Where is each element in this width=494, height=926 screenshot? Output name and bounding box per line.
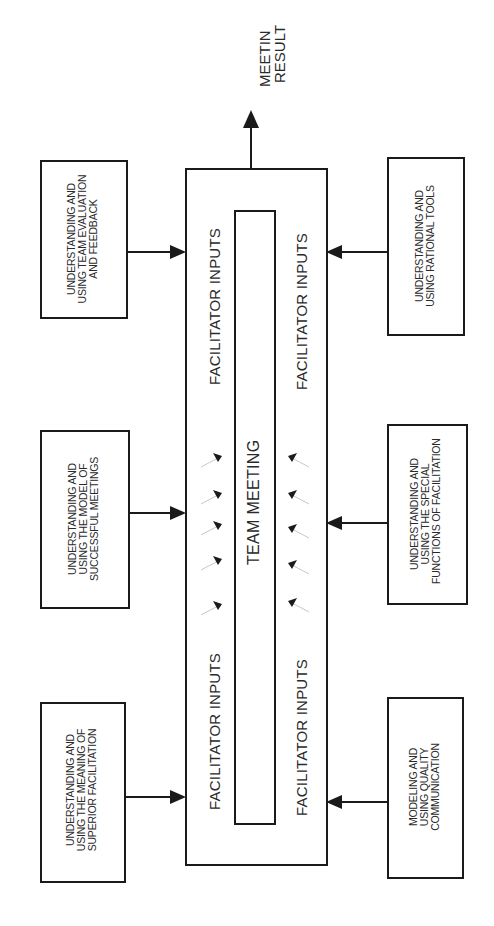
team-meeting-label: TEAM MEETING (245, 465, 265, 565)
label-line: FUNCTIONS OF FACILITATION (431, 444, 442, 584)
label-line: SUPERIOR FACILITATION (87, 720, 98, 860)
meeting-result-line-2: RESULT (272, 17, 287, 87)
input-label-rational-tools: UNDERSTANDING AND USING RATIONAL TOOLS (414, 176, 438, 316)
facilitator-inputs-label-lower-left: FACILITATOR INPUTS (206, 660, 224, 810)
input-label-team-evaluation: UNDERSTANDING AND USING TEAM EVALUATION … (66, 169, 102, 309)
label-line: AND FEEDBACK (88, 169, 99, 309)
label-line: SUCCESSFUL MEETINGS (89, 449, 100, 589)
meeting-result-label: MEETIN RESULT (257, 17, 289, 87)
label-line: COMMUNICATION (430, 717, 441, 857)
input-label-successful-meetings: UNDERSTANDING AND USING THE MODEL OF SUC… (67, 449, 103, 589)
input-label-superior-facilitation: UNDERSTANDING AND USING THE MEANING OF S… (65, 720, 101, 860)
facilitator-inputs-label-lower-right: FACILITATOR INPUTS (293, 666, 311, 816)
input-label-special-functions: UNDERSTANDING AND USING THE SPECIAL FUNC… (409, 444, 445, 584)
input-label-quality-communication: MODELING AND USING QUALITY COMMUNICATION (408, 717, 444, 857)
label-line: USING RATIONAL TOOLS (425, 176, 436, 316)
small-arrows-right (288, 453, 309, 612)
small-arrows-left (201, 453, 222, 615)
facilitator-inputs-label-upper-right: FACILITATOR INPUTS (293, 240, 311, 390)
meeting-result-line-1: MEETIN (257, 17, 272, 87)
facilitator-inputs-label-upper-left: FACILITATOR INPUTS (206, 235, 224, 385)
